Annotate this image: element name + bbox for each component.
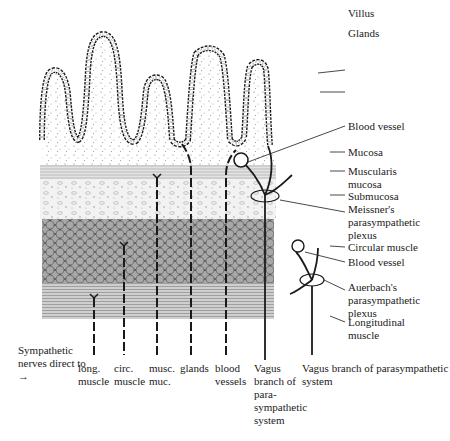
vagus-branch-2 bbox=[290, 240, 324, 355]
label-submucosa: Submucosa bbox=[348, 190, 399, 203]
label-glands: Glands bbox=[348, 27, 379, 40]
label-target-long-muscle: long. muscle bbox=[78, 362, 112, 388]
label-auerbachs-plexus: Auerbach's parasympathetic plexus bbox=[348, 281, 428, 320]
label-blood-vessel-2: Blood vessel bbox=[348, 256, 405, 269]
label-target-blood-vessels: blood vessels bbox=[215, 362, 253, 388]
label-target-glands: glands bbox=[180, 362, 209, 375]
label-longitudinal-muscle: Longitudinal muscle bbox=[348, 316, 428, 342]
label-meissners-plexus: Meissner's parasympathetic plexus bbox=[348, 203, 428, 242]
label-muscularis-mucosa: Muscularis mucosa bbox=[348, 165, 418, 191]
label-target-circ-muscle: circ. muscle bbox=[114, 362, 148, 388]
label-circular-muscle: Circular muscle bbox=[348, 241, 418, 254]
label-blood-vessel: Blood vessel bbox=[348, 120, 405, 133]
mucosa-layer bbox=[42, 34, 276, 165]
label-vagus-branch-2: Vagus branch of parasympathetic system bbox=[302, 362, 450, 388]
label-mucosa: Mucosa bbox=[348, 146, 383, 159]
label-villus: Villus bbox=[348, 7, 374, 20]
label-target-musc-muc: musc. muc. bbox=[149, 362, 181, 388]
